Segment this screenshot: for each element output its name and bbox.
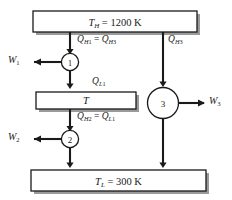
w1-sub-number: 1 [16, 59, 19, 66]
heat-label-qh1-eq-qh3: QH1 = QH3 [77, 35, 116, 45]
qh3-sub-number-a: 3 [113, 38, 116, 45]
work-label-w2: W2 [8, 132, 20, 143]
qh1-symbol: Q [77, 34, 84, 44]
qh3-sub-number-b: 3 [179, 38, 182, 45]
engine-3-label: 3 [153, 99, 173, 109]
ql1-symbol-b: Q [102, 111, 109, 121]
diagram-canvas: TH = 1200 K T TL = 300 K QH1 = QH3 QH3 Q… [0, 0, 232, 200]
cold-reservoir-label: TL = 300 K [31, 176, 206, 188]
qh1-sub-number: 1 [88, 38, 91, 45]
qh3-symbol-b: Q [168, 34, 175, 44]
ql1-sub-number-b: 1 [112, 115, 115, 122]
cold-temp-value: = 300 K [107, 176, 142, 187]
work-label-w1: W1 [8, 55, 20, 66]
intermediate-temp-symbol: T [83, 95, 89, 106]
hot-temp-subscript: H [94, 22, 99, 29]
heat-label-ql1: QL1 [92, 77, 106, 87]
engine-2-label: 2 [60, 135, 80, 145]
heat-label-qh3: QH3 [168, 35, 183, 45]
qh2-equals-sign: = [94, 111, 99, 121]
work-arrowhead-w1 [34, 58, 41, 65]
w2-sub-number: 2 [16, 136, 19, 143]
hot-temp-value: = 1200 K [102, 17, 142, 28]
qh3-symbol-a: Q [102, 34, 109, 44]
ql1-symbol: Q [92, 76, 99, 86]
hot-reservoir-label: TH = 1200 K [33, 17, 197, 29]
engine-1-label: 1 [60, 58, 80, 68]
intermediate-reservoir-label: T [36, 95, 136, 106]
w3-sub-number: 3 [217, 100, 220, 107]
qh2-sub-number: 2 [88, 115, 91, 122]
ql1-sub-number: 1 [102, 80, 105, 87]
cold-temp-subscript: L [101, 181, 105, 188]
work-arrowhead-w3 [198, 99, 205, 106]
qh1-equals-sign: = [94, 34, 99, 44]
work-label-w3: W3 [209, 96, 221, 107]
work-arrowhead-w2 [34, 135, 41, 142]
qh2-symbol: Q [77, 111, 84, 121]
heat-label-qh2-eq-ql1: QH2 = QL1 [77, 112, 115, 122]
